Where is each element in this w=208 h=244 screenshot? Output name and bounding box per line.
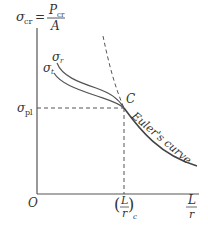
sigma-pl-label: σ pl bbox=[17, 101, 33, 117]
sigma-pl-sub: pl bbox=[25, 108, 33, 117]
point-c-label: C bbox=[126, 92, 135, 106]
critical-ratio-label: ( L r ) c bbox=[114, 194, 137, 221]
sigma-t-sub: t bbox=[51, 68, 54, 76]
buckling-diagram: σ cr = P cr A σ r σ t σ pl C Euler's cur… bbox=[0, 0, 208, 244]
x-label-denominator: r bbox=[189, 208, 195, 221]
x-label-numerator: L bbox=[187, 193, 196, 207]
critical-ratio-close-paren: ) bbox=[128, 195, 134, 214]
y-label-equals: = bbox=[35, 10, 45, 24]
critical-ratio-open-paren: ( bbox=[114, 195, 120, 214]
sigma-r-sub: r bbox=[60, 57, 64, 65]
y-axis-label: σ cr = P cr A bbox=[16, 3, 65, 33]
x-axis-label: L r bbox=[186, 193, 197, 221]
y-label-denominator: A bbox=[50, 19, 60, 33]
critical-ratio-sub: c bbox=[133, 213, 137, 221]
origin-label: O bbox=[28, 196, 38, 210]
y-label-sigma-sub: cr bbox=[24, 17, 32, 26]
sigma-r-label: σ r bbox=[52, 50, 64, 65]
euler-curve-label: Euler's curve bbox=[128, 109, 194, 167]
sigma-r-curve bbox=[57, 63, 124, 108]
